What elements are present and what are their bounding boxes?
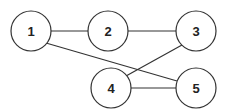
node-3: 3 <box>176 11 216 51</box>
node-2-label: 2 <box>104 24 111 39</box>
node-5-label: 5 <box>192 81 199 96</box>
node-3-label: 3 <box>192 24 199 39</box>
node-2: 2 <box>88 11 128 51</box>
node-5: 5 <box>176 68 216 108</box>
edge-3-4 <box>126 45 182 76</box>
node-1-label: 1 <box>27 24 34 39</box>
node-1: 1 <box>11 11 51 51</box>
node-4: 4 <box>91 68 131 108</box>
graph-diagram: 1 2 3 4 5 <box>0 0 225 112</box>
node-4-label: 4 <box>107 81 115 96</box>
